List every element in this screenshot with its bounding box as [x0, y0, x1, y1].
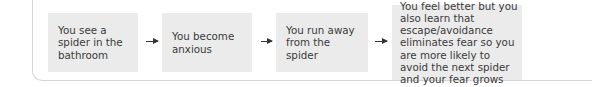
step-label-1: You see a spider in the bathroom — [58, 24, 134, 61]
step-box-2: You become anxious — [162, 13, 252, 72]
step-label-3: You run away from the spider — [286, 24, 364, 61]
step-box-1: You see a spider in the bathroom — [48, 13, 138, 72]
step-box-3: You run away from the spider — [276, 13, 368, 72]
arrow-right-icon — [146, 41, 158, 42]
step-label-2: You become anxious — [172, 30, 248, 54]
arrow-right-icon — [261, 41, 272, 42]
step-label-4: You feel better but you also learn that … — [400, 0, 518, 85]
arrow-right-icon — [375, 41, 387, 42]
step-box-4: You feel better but you also learn that … — [392, 5, 522, 80]
